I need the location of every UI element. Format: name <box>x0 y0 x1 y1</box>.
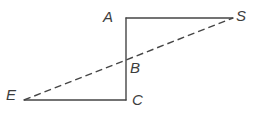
vertex-label-c: C <box>132 92 143 107</box>
vertex-label-e: E <box>6 87 16 102</box>
vertex-label-s: S <box>236 8 246 23</box>
segment-ES-line <box>24 18 233 100</box>
geometry-figure: A S B C E <box>0 0 269 114</box>
vertex-label-b: B <box>130 60 140 75</box>
vertex-label-a: A <box>103 9 113 24</box>
